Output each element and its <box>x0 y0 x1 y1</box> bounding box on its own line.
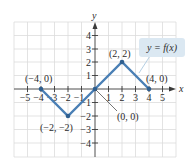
point-label: (0, 0) <box>117 111 139 123</box>
x-tick-label: 5 <box>160 92 165 103</box>
x-tick-label: 3 <box>133 92 138 103</box>
y-tick-label: 3 <box>86 44 91 55</box>
x-tick-label: −4 <box>33 92 44 103</box>
point-marker <box>147 87 152 92</box>
x-axis-label: x <box>178 83 184 94</box>
point-marker <box>66 114 71 119</box>
y-tick-label: −2 <box>80 111 91 122</box>
curve-label: y = f(x) <box>146 42 178 54</box>
x-tick-label: 1 <box>106 92 111 103</box>
point-label: (4, 0) <box>146 73 168 85</box>
function-graph: x y −5 −4 −3 −2 −1 1 2 3 4 5 4 3 2 1 −1 … <box>0 0 194 165</box>
x-tick-labels: −5 −4 −3 −2 −1 1 2 3 4 5 <box>20 92 165 103</box>
point-marker <box>120 60 125 65</box>
y-tick-label: −4 <box>80 138 91 149</box>
point-marker <box>39 87 44 92</box>
curve-label-leader <box>139 56 150 73</box>
y-tick-label: 2 <box>86 57 91 68</box>
y-tick-label: 1 <box>86 70 91 81</box>
y-axis-arrow-icon <box>93 22 98 29</box>
x-tick-label: −2 <box>60 92 71 103</box>
y-axis-label: y <box>91 10 97 21</box>
x-axis-arrow-icon <box>169 87 176 92</box>
x-tick-label: 2 <box>120 92 125 103</box>
y-tick-label: −3 <box>80 124 91 135</box>
point-label: (2, 2) <box>109 48 131 60</box>
point-label: (−2, −2) <box>40 122 73 134</box>
x-tick-label: −5 <box>20 92 31 103</box>
x-tick-label: 4 <box>147 92 152 103</box>
y-tick-label: 4 <box>86 30 91 41</box>
point-label: (−4, 0) <box>25 73 52 85</box>
